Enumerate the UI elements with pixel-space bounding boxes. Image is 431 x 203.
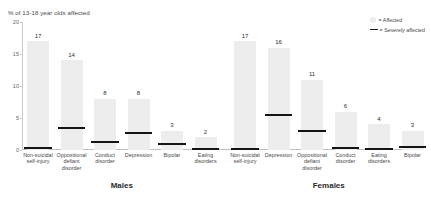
bar-chart: % of 13-18 year olds affected = Affected…	[0, 0, 431, 203]
bar-affected	[335, 112, 357, 150]
bar-affected	[27, 41, 49, 150]
bar-severely-affected-marker	[91, 141, 118, 143]
bar-severely-affected-marker	[298, 130, 325, 132]
bar-value-label: 6	[344, 103, 347, 109]
bar-affected	[128, 99, 150, 150]
bar-group: 17	[234, 22, 256, 150]
category-label: Non-suicidal self-injury	[22, 152, 54, 165]
bar-value-label: 3	[170, 122, 173, 128]
category-label: Oppositional defiant disorder	[56, 152, 88, 171]
bar-severely-affected-marker	[24, 147, 51, 149]
bar-severely-affected-marker	[231, 148, 258, 150]
bar-group: 6	[335, 22, 357, 150]
bar-severely-affected-marker	[265, 114, 292, 116]
y-tick-label: 15	[13, 51, 19, 57]
bar-value-label: 2	[204, 129, 207, 135]
bar-series-container: 17148832171611643	[22, 22, 422, 150]
bar-group: 2	[195, 22, 217, 150]
y-tick-mark	[20, 150, 23, 151]
bar-group: 17	[27, 22, 49, 150]
bar-affected	[301, 80, 323, 150]
bar-group: 11	[301, 22, 323, 150]
bar-severely-affected-marker	[125, 132, 152, 134]
bar-affected	[161, 131, 183, 150]
bar-severely-affected-marker	[58, 127, 85, 129]
bar-value-label: 11	[309, 71, 315, 77]
category-label: Eating disorders	[363, 152, 395, 165]
bar-group: 4	[368, 22, 390, 150]
bar-value-label: 3	[411, 122, 414, 128]
bar-severely-affected-marker	[192, 148, 219, 150]
category-label: Bipolar	[397, 152, 429, 158]
bar-affected	[61, 60, 83, 150]
bar-group: 3	[161, 22, 183, 150]
bar-severely-affected-marker	[365, 148, 392, 150]
bar-severely-affected-marker	[158, 143, 185, 145]
bar-group: 14	[61, 22, 83, 150]
bar-value-label: 17	[35, 33, 42, 39]
category-label: Conduct disorder	[89, 152, 121, 165]
bar-value-label: 17	[242, 33, 249, 39]
bar-value-label: 8	[103, 90, 106, 96]
category-label: Conduct disorder	[330, 152, 362, 165]
y-tick-label: 20	[13, 19, 19, 25]
category-label: Eating disorders	[190, 152, 222, 165]
category-labels: Non-suicidal self-injuryOppositional def…	[22, 152, 422, 182]
bar-group: 8	[94, 22, 116, 150]
bar-group: 16	[268, 22, 290, 150]
bar-group: 8	[128, 22, 150, 150]
plot-area: 05101520 17148832171611643	[22, 22, 422, 150]
bar-value-label: 8	[137, 90, 140, 96]
bar-group: 3	[402, 22, 424, 150]
group-title-males: Males	[27, 181, 217, 190]
bar-value-label: 16	[275, 39, 282, 45]
category-label: Depression	[263, 152, 295, 158]
bar-affected	[368, 124, 390, 150]
y-tick-label: 10	[13, 83, 19, 89]
y-axis-title: % of 13-18 year olds affected	[8, 9, 90, 16]
category-label: Bipolar	[156, 152, 188, 158]
bar-affected	[234, 41, 256, 150]
bar-affected	[268, 48, 290, 150]
bar-value-label: 14	[68, 52, 75, 58]
bar-severely-affected-marker	[399, 146, 426, 148]
category-label: Depression	[123, 152, 155, 158]
category-label: Oppositional defiant disorder	[296, 152, 328, 171]
bar-severely-affected-marker	[332, 147, 359, 149]
group-title-females: Females	[234, 181, 424, 190]
category-label: Non-suicidal self-injury	[229, 152, 261, 165]
bar-value-label: 4	[377, 116, 380, 122]
